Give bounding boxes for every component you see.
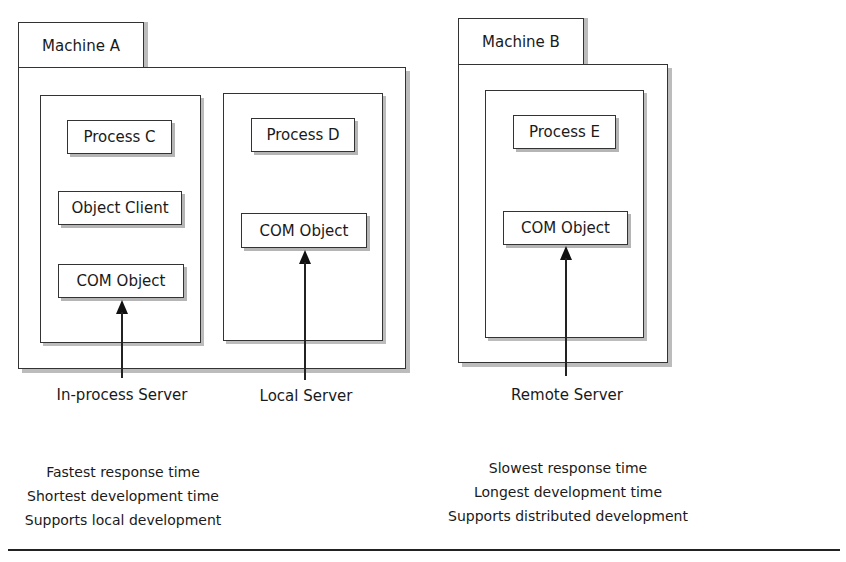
bottom-rule — [8, 549, 840, 551]
machine-b-tab: Machine B — [458, 18, 584, 64]
com-object-label: COM Object — [521, 219, 610, 237]
com-object-label: COM Object — [77, 272, 166, 290]
note-line: Slowest response time — [448, 456, 688, 480]
machine-b-label: Machine B — [482, 33, 560, 51]
note-line: Supports distributed development — [448, 504, 688, 528]
process-c-label: Process C — [83, 128, 155, 146]
connector-line — [565, 258, 567, 376]
connector-line — [121, 312, 123, 378]
process-c-box: Process C — [67, 120, 172, 154]
note-line: Longest development time — [448, 480, 688, 504]
note-line: Supports local development — [25, 508, 222, 532]
process-e-label: Process E — [529, 123, 600, 141]
process-d-label: Process D — [266, 126, 339, 144]
local-server-label: Local Server — [260, 387, 353, 405]
com-object-remote-box: COM Object — [503, 211, 628, 245]
inprocess-server-label: In-process Server — [57, 386, 188, 404]
object-client-box: Object Client — [58, 191, 182, 225]
connector-line — [304, 262, 306, 380]
machine-a-tab: Machine A — [18, 22, 144, 68]
com-object-inprocess-box: COM Object — [58, 264, 184, 298]
process-d-box: Process D — [251, 118, 355, 152]
left-notes: Fastest response time Shortest developme… — [25, 460, 222, 532]
object-client-label: Object Client — [71, 199, 168, 217]
right-notes: Slowest response time Longest developmen… — [448, 456, 688, 528]
com-object-label: COM Object — [260, 222, 349, 240]
com-object-local-box: COM Object — [241, 213, 367, 248]
machine-a-label: Machine A — [42, 37, 120, 55]
process-e-box: Process E — [513, 115, 616, 149]
note-line: Shortest development time — [25, 484, 222, 508]
remote-server-label: Remote Server — [511, 386, 623, 404]
note-line: Fastest response time — [25, 460, 222, 484]
